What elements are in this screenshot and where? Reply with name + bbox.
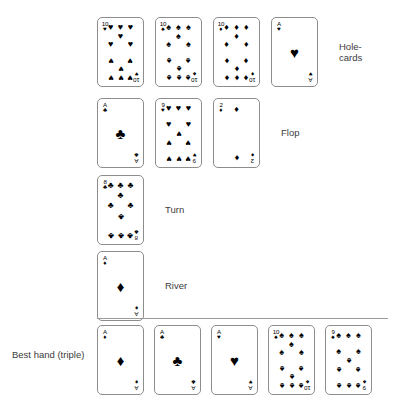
card-pip: ♥ bbox=[176, 104, 181, 113]
card-pip: ♥ bbox=[186, 138, 191, 147]
card-pip: ♠ bbox=[166, 72, 171, 81]
card-pip: ♦ bbox=[244, 39, 249, 48]
card-ten-of-hearts: 10♥10♥♥♥♥♥♥♥♥♥♥♥♥♥ bbox=[97, 17, 144, 87]
card-ten-of-spades: 10♠10♠♠♠♠♠♠♠♠♠♠♠♠♠ bbox=[155, 17, 202, 87]
card-pip: ♥ bbox=[166, 138, 171, 147]
card-pip-area: ♠♠♠♠♠♠♠♠♠♠♠♠ bbox=[163, 23, 194, 81]
card-pip: ♠ bbox=[356, 346, 361, 355]
card-pip: ♣ bbox=[118, 211, 124, 220]
card-pip: ♣ bbox=[116, 126, 126, 141]
card-pip: ♠ bbox=[299, 364, 304, 373]
row-turn: 8♣8♣♣♣♣♣♣♣♣♣♣♣ Turn bbox=[97, 175, 184, 245]
card-pip: ♠ bbox=[289, 380, 294, 389]
card-pip: ♥ bbox=[128, 56, 133, 65]
card-pip: ♦ bbox=[244, 72, 249, 81]
card-pip: ♠ bbox=[279, 380, 284, 389]
card-nine-of-spades: 9♠9♠♠♠♠♠♠♠♠♠♠♠♠ bbox=[325, 325, 372, 395]
card-pip: ♠ bbox=[356, 365, 361, 374]
card-ace-of-diamonds: A♦A♦♦ bbox=[97, 251, 144, 321]
best-hand-card-list: A♦A♦♦A♣A♣♣A♥A♥♥10♠10♠♠♠♠♠♠♠♠♠♠♠♠♠9♠9♠♠♠♠… bbox=[97, 325, 382, 395]
card-pip-area: ♦ bbox=[105, 331, 136, 389]
card-pip: ♣ bbox=[118, 190, 124, 199]
card-pip: ♠ bbox=[299, 347, 304, 356]
row-river: A♦A♦♦ River bbox=[97, 251, 187, 321]
card-pip: ♥ bbox=[108, 72, 113, 81]
card-pip: ♦ bbox=[234, 104, 239, 113]
card-pip: ♦ bbox=[224, 72, 229, 81]
card-pip: ♣ bbox=[108, 181, 114, 190]
card-pip: ♥ bbox=[128, 72, 133, 81]
card-pip: ♦ bbox=[224, 56, 229, 65]
card-two-of-diamonds: 2♦2♦♦♦ bbox=[213, 98, 260, 168]
card-pip-area: ♥♥♥♥♥♥♥♥♥♥♥♥ bbox=[105, 23, 136, 81]
card-pip: ♦ bbox=[244, 23, 249, 32]
card-pip: ♠ bbox=[166, 56, 171, 65]
card-pip: ♠ bbox=[289, 372, 294, 381]
card-pip: ♥ bbox=[166, 104, 171, 113]
card-pip: ♦ bbox=[234, 153, 239, 162]
card-pip: ♠ bbox=[336, 380, 341, 389]
row-label-best-hand: Best hand (triple) bbox=[12, 349, 84, 361]
row-label-river: River bbox=[165, 280, 187, 292]
card-pip: ♠ bbox=[176, 31, 181, 40]
card-pip-area: ♥♥♥♥♥♥♥♥♥♥♥ bbox=[163, 104, 194, 162]
card-pip: ♠ bbox=[279, 331, 284, 340]
card-pip: ♠ bbox=[336, 346, 341, 355]
card-ace-of-clubs: A♣A♣♣ bbox=[97, 98, 144, 168]
card-pip-area: ♠♠♠♠♠♠♠♠♠♠♠♠ bbox=[276, 331, 307, 389]
card-pip: ♥ bbox=[166, 119, 171, 128]
card-ten-of-spades: 10♠10♠♠♠♠♠♠♠♠♠♠♠♠♠ bbox=[268, 325, 315, 395]
card-pip: ♥ bbox=[176, 153, 181, 162]
card-pip: ♥ bbox=[118, 31, 123, 40]
card-pip: ♠ bbox=[336, 331, 341, 340]
card-pip: ♣ bbox=[127, 200, 133, 209]
card-pip: ♣ bbox=[173, 353, 183, 368]
card-pip: ♠ bbox=[346, 356, 351, 365]
card-pip: ♥ bbox=[230, 353, 239, 368]
card-nine-of-hearts: 9♥9♥♥♥♥♥♥♥♥♥♥♥♥ bbox=[155, 98, 202, 168]
card-pip: ♠ bbox=[336, 365, 341, 374]
card-ace-of-diamonds: A♦A♦♦ bbox=[97, 325, 144, 395]
card-pip: ♥ bbox=[186, 153, 191, 162]
card-pip: ♥ bbox=[186, 119, 191, 128]
card-pip: ♠ bbox=[176, 64, 181, 73]
card-pip: ♠ bbox=[346, 331, 351, 340]
card-pip: ♣ bbox=[108, 200, 114, 209]
row-label-turn: Turn bbox=[165, 204, 184, 216]
card-ten-of-diamonds: 10♦10♦♦♦♦♦♦♦♦♦♦♦♦♦ bbox=[213, 17, 260, 87]
card-pip: ♠ bbox=[186, 56, 191, 65]
row-flop: A♣A♣♣9♥9♥♥♥♥♥♥♥♥♥♥♥♥2♦2♦♦♦ Flop bbox=[97, 98, 299, 168]
row-holecards: 10♥10♥♥♥♥♥♥♥♥♥♥♥♥♥10♠10♠♠♠♠♠♠♠♠♠♠♠♠♠10♦1… bbox=[97, 17, 362, 87]
card-pip: ♥ bbox=[108, 23, 113, 32]
card-pip: ♥ bbox=[128, 23, 133, 32]
card-pip: ♠ bbox=[186, 72, 191, 81]
card-pip: ♠ bbox=[356, 380, 361, 389]
card-pip: ♣ bbox=[118, 181, 124, 190]
card-pip: ♥ bbox=[118, 72, 123, 81]
card-pip: ♥ bbox=[186, 104, 191, 113]
card-pip: ♥ bbox=[176, 129, 181, 138]
card-pip: ♦ bbox=[234, 31, 239, 40]
holecards-card-list: 10♥10♥♥♥♥♥♥♥♥♥♥♥♥♥10♠10♠♠♠♠♠♠♠♠♠♠♠♠♠10♦1… bbox=[97, 17, 329, 87]
card-pip: ♣ bbox=[127, 181, 133, 190]
card-pip: ♥ bbox=[166, 153, 171, 162]
river-card-list: A♦A♦♦ bbox=[97, 251, 155, 321]
card-pip: ♠ bbox=[299, 331, 304, 340]
card-pip-area: ♦♦ bbox=[221, 104, 252, 162]
card-pip-area: ♥ bbox=[219, 331, 250, 389]
card-pip: ♥ bbox=[118, 64, 123, 73]
card-pip-area: ♦ bbox=[105, 257, 136, 315]
best-hand-separator bbox=[97, 318, 388, 319]
card-pip: ♦ bbox=[117, 353, 125, 368]
turn-card-list: 8♣8♣♣♣♣♣♣♣♣♣♣♣ bbox=[97, 175, 155, 245]
card-pip: ♠ bbox=[166, 39, 171, 48]
card-ace-of-clubs: A♣A♣♣ bbox=[154, 325, 201, 395]
card-pip: ♠ bbox=[279, 347, 284, 356]
card-pip: ♠ bbox=[299, 380, 304, 389]
card-pip-area: ♥ bbox=[279, 23, 310, 81]
card-pip: ♠ bbox=[346, 380, 351, 389]
card-pip: ♣ bbox=[118, 230, 124, 239]
flop-card-list: A♣A♣♣9♥9♥♥♥♥♥♥♥♥♥♥♥♥2♦2♦♦♦ bbox=[97, 98, 271, 168]
row-label-holecards: Hole- cards bbox=[339, 41, 362, 64]
card-pip: ♥ bbox=[290, 45, 299, 60]
